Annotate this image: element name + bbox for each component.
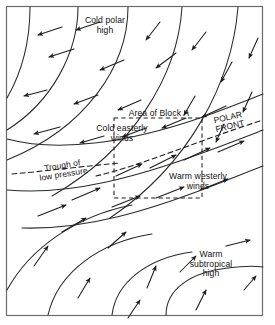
cold-polar-high-line2: high — [97, 25, 114, 35]
warm-subtropical-line1: Warm — [200, 249, 223, 259]
label-cold-polar-high: Cold polar high — [62, 16, 148, 35]
warm-westerly-line1: Warm westerly — [169, 171, 227, 181]
area-of-block-letter: A — [184, 108, 190, 118]
cold-polar-high-line1: Cold polar — [85, 15, 125, 25]
label-warm-subtropical-high: Warm subtropical high — [168, 250, 254, 279]
weather-map-figure: Cold polar high Area of Block A Cold eas… — [0, 0, 275, 325]
cold-easterly-line1: Cold easterly — [96, 123, 147, 133]
warm-westerly-line2: winds — [187, 181, 209, 191]
label-area-of-block-a: Area of Block A — [104, 109, 214, 119]
label-warm-westerly-winds: Warm westerly winds — [152, 172, 244, 191]
label-cold-easterly-winds: Cold easterly winds — [78, 124, 166, 143]
warm-subtropical-line2: subtropical — [190, 259, 233, 269]
area-of-block-prefix: Area of Block — [129, 108, 184, 118]
warm-subtropical-line3: high — [203, 268, 220, 278]
cold-easterly-line2: winds — [111, 133, 133, 143]
